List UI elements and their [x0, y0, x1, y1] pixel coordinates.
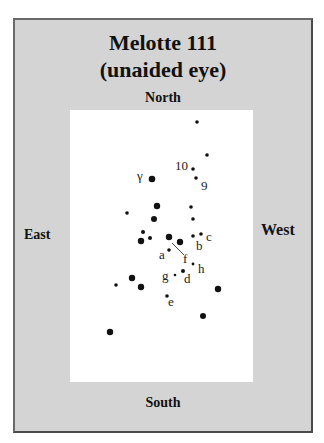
- star-map: 109γbcahgdef: [0, 0, 324, 443]
- star-label: h: [198, 261, 205, 276]
- star-label: c: [206, 229, 212, 244]
- star: [191, 234, 195, 238]
- star: [167, 248, 171, 252]
- star: [125, 211, 129, 215]
- star: [189, 205, 193, 209]
- star-label: b: [196, 238, 203, 253]
- star: [195, 120, 199, 124]
- star: [149, 176, 156, 183]
- star-label: g: [162, 268, 169, 283]
- star-label: f: [183, 251, 188, 266]
- star: [114, 283, 118, 287]
- star-label: γ: [136, 168, 143, 183]
- star: [174, 274, 177, 277]
- star: [138, 238, 144, 244]
- star: [200, 313, 206, 319]
- star: [205, 153, 209, 157]
- star: [191, 167, 195, 171]
- star-label: e: [168, 294, 174, 309]
- star: [129, 275, 135, 281]
- star: [215, 286, 221, 292]
- star: [138, 284, 144, 290]
- star: [192, 263, 195, 266]
- star: [199, 232, 203, 236]
- star-label: a: [159, 247, 165, 262]
- star-label: d: [184, 271, 191, 286]
- star: [151, 216, 157, 222]
- star: [166, 234, 172, 240]
- star: [148, 236, 152, 240]
- star: [107, 329, 113, 335]
- star: [191, 217, 195, 221]
- star-label: 9: [201, 178, 208, 193]
- star-label: 10: [175, 158, 188, 173]
- star: [154, 203, 160, 209]
- star: [194, 176, 198, 180]
- star: [141, 230, 145, 234]
- star: [177, 239, 183, 245]
